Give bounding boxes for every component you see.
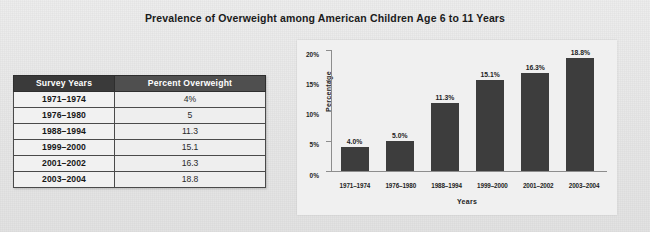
bar-slot: 18.8% bbox=[558, 51, 603, 171]
x-axis-tick-labels: 1971–19741976–19801988–19941999–20002001… bbox=[332, 182, 607, 189]
cell-percent-overweight: 18.8 bbox=[115, 172, 266, 188]
table-row: 1971–19744% bbox=[14, 92, 266, 108]
bar-slot: 15.1% bbox=[468, 51, 513, 171]
cell-percent-overweight: 4% bbox=[115, 92, 266, 108]
y-axis-tick: 0% bbox=[326, 171, 332, 172]
bar: 5.0% bbox=[386, 141, 414, 171]
table-header-row: Survey Years Percent Overweight bbox=[14, 76, 266, 92]
bar-chart-panel: Percentage 0%5%10%15%20% 4.0%5.0%11.3%15… bbox=[297, 40, 617, 215]
x-axis-tick-label: 2001–2002 bbox=[515, 182, 561, 189]
table-header: Survey Years Percent Overweight bbox=[14, 76, 266, 92]
x-axis-tick-label: 1988–1994 bbox=[424, 182, 470, 189]
column-header-survey-years: Survey Years bbox=[14, 76, 115, 92]
table-body: 1971–19744%1976–198051988–199411.31999–2… bbox=[14, 92, 266, 188]
cell-survey-years: 1999–2000 bbox=[14, 140, 115, 156]
bar-value-label: 15.1% bbox=[480, 71, 499, 78]
table-row: 1988–199411.3 bbox=[14, 124, 266, 140]
x-axis-tick-label: 2003–2004 bbox=[561, 182, 607, 189]
y-axis-tick-label: 20% bbox=[306, 50, 319, 51]
x-axis-line bbox=[331, 171, 607, 172]
x-axis-title: Years bbox=[331, 198, 603, 205]
table-row: 2001–200216.3 bbox=[14, 156, 266, 172]
bar-value-label: 5.0% bbox=[392, 132, 408, 139]
bar-slot: 11.3% bbox=[422, 51, 467, 171]
bar-value-label: 4.0% bbox=[347, 138, 363, 145]
bar: 18.8% bbox=[566, 58, 594, 171]
y-axis-tick-label: 10% bbox=[306, 111, 319, 112]
table-row: 2003–200418.8 bbox=[14, 172, 266, 188]
bar-value-label: 18.8% bbox=[571, 49, 590, 56]
y-axis-tick-label: 5% bbox=[310, 141, 319, 142]
plot-area: 0%5%10%15%20% 4.0%5.0%11.3%15.1%16.3%18.… bbox=[331, 51, 603, 172]
bar: 15.1% bbox=[476, 80, 504, 171]
cell-percent-overweight: 5 bbox=[115, 108, 266, 124]
table-row: 1976–19805 bbox=[14, 108, 266, 124]
bar-slot: 4.0% bbox=[332, 51, 377, 171]
y-axis-tick-label: 15% bbox=[306, 81, 319, 82]
x-axis-tick-label: 1999–2000 bbox=[469, 182, 515, 189]
y-axis-tick-label: 0% bbox=[310, 171, 319, 172]
bar-series: 4.0%5.0%11.3%15.1%16.3%18.8% bbox=[332, 51, 603, 171]
bar: 11.3% bbox=[431, 103, 459, 171]
cell-survey-years: 1976–1980 bbox=[14, 108, 115, 124]
figure-title: Prevalence of Overweight among American … bbox=[0, 12, 650, 24]
x-axis-tick-label: 1976–1980 bbox=[378, 182, 424, 189]
column-header-percent-overweight: Percent Overweight bbox=[115, 76, 266, 92]
bar: 16.3% bbox=[521, 73, 549, 171]
cell-survey-years: 1971–1974 bbox=[14, 92, 115, 108]
bar: 4.0% bbox=[341, 147, 369, 171]
cell-percent-overweight: 16.3 bbox=[115, 156, 266, 172]
x-axis-tick-label: 1971–1974 bbox=[332, 182, 378, 189]
bar-slot: 5.0% bbox=[377, 51, 422, 171]
cell-percent-overweight: 15.1 bbox=[115, 140, 266, 156]
cell-survey-years: 1988–1994 bbox=[14, 124, 115, 140]
table-row: 1999–200015.1 bbox=[14, 140, 266, 156]
bar-value-label: 16.3% bbox=[526, 64, 545, 71]
cell-survey-years: 2003–2004 bbox=[14, 172, 115, 188]
bar-value-label: 11.3% bbox=[435, 94, 454, 101]
cell-survey-years: 2001–2002 bbox=[14, 156, 115, 172]
prevalence-table: Survey Years Percent Overweight 1971–197… bbox=[13, 75, 266, 188]
bar-slot: 16.3% bbox=[513, 51, 558, 171]
cell-percent-overweight: 11.3 bbox=[115, 124, 266, 140]
